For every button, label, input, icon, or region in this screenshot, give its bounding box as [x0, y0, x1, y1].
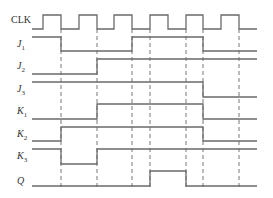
waveforms [32, 15, 257, 186]
waveform-k1 [32, 104, 257, 119]
label-j3: J3 [17, 83, 25, 97]
waveform-clk [32, 15, 257, 29]
label-k2: K2 [16, 128, 28, 142]
label-k1: K1 [16, 105, 28, 119]
waveform-k3 [32, 149, 257, 164]
label-clk: CLK [11, 14, 32, 25]
signal-labels: CLKJ1J2J3K1K2K3Q [11, 14, 32, 186]
label-j1: J1 [17, 38, 25, 52]
timing-diagram: CLKJ1J2J3K1K2K3Q [0, 0, 273, 198]
label-k3: K3 [16, 150, 28, 164]
clock-edge-dashed-lines [61, 29, 239, 190]
waveform-q [32, 171, 257, 186]
waveform-j3 [32, 82, 257, 97]
label-j2: J2 [17, 60, 25, 74]
waveform-j2 [32, 59, 257, 74]
label-q: Q [17, 175, 25, 186]
waveform-j1 [32, 37, 257, 51]
waveform-k2 [32, 127, 257, 141]
